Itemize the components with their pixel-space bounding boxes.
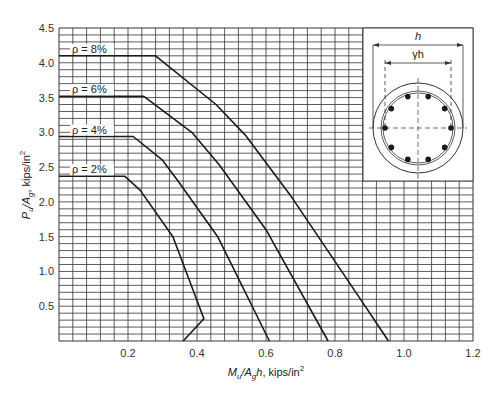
rebar-dot — [442, 106, 448, 112]
curve-8pct — [59, 56, 389, 341]
y-tick-label: 2.5 — [39, 161, 54, 173]
y-tick-label: 4.5 — [39, 22, 54, 34]
curve-label: ρ = 6% — [72, 83, 107, 95]
curve-label: ρ = 8% — [72, 43, 107, 55]
y-axis-label: Pu/Ag, kips/in2 — [18, 150, 35, 219]
rebar-dot — [425, 94, 431, 100]
y-axis-ticks: 0.51.01.52.02.53.03.54.04.5 — [39, 22, 54, 312]
curves — [59, 56, 389, 341]
y-tick-label: 0.5 — [39, 300, 54, 312]
y-tick-label: 4.0 — [39, 57, 54, 69]
y-tick-label: 1.5 — [39, 231, 54, 243]
x-axis-label: Mu/Agh, kips/in2 — [228, 364, 305, 381]
x-tick-label: 0.4 — [189, 347, 204, 359]
rebar-dot — [425, 157, 431, 163]
rebar-dot — [448, 125, 454, 131]
interaction-diagram: hγh ρ = 8%ρ = 6%ρ = 4%ρ = 2% 0.20.40.60.… — [0, 0, 503, 396]
curve-label: ρ = 2% — [72, 163, 107, 175]
gamma-h-dimension-label: γh — [412, 48, 424, 60]
h-dimension-label: h — [415, 30, 421, 42]
x-tick-label: 0.8 — [327, 347, 342, 359]
curve-2pct — [59, 176, 204, 341]
rebar-dot — [389, 106, 395, 112]
rebar-dot — [389, 145, 395, 151]
x-tick-label: 1.2 — [465, 347, 480, 359]
y-tick-label: 1.0 — [39, 265, 54, 277]
y-tick-label: 3.0 — [39, 126, 54, 138]
x-tick-label: 0.6 — [258, 347, 273, 359]
rebar-dot — [405, 157, 411, 163]
curve-label: ρ = 4% — [72, 124, 107, 136]
rebar-dot — [382, 125, 388, 131]
x-tick-label: 0.2 — [120, 347, 135, 359]
y-tick-label: 2.0 — [39, 196, 54, 208]
rebar-dot — [405, 94, 411, 100]
x-axis-ticks: 0.20.40.60.81.01.2 — [120, 347, 480, 359]
rebar-dot — [442, 145, 448, 151]
y-tick-label: 3.5 — [39, 92, 54, 104]
x-tick-label: 1.0 — [396, 347, 411, 359]
